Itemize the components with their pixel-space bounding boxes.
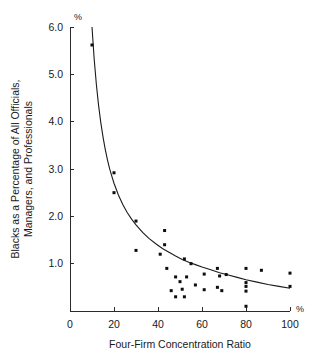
data-point (165, 267, 168, 270)
x-tick-label: 0 (67, 318, 73, 330)
data-point (216, 286, 219, 289)
x-tick-label: 40 (152, 318, 164, 330)
data-point (181, 288, 184, 291)
axes (70, 27, 290, 311)
data-point (260, 269, 263, 272)
data-point (225, 273, 228, 276)
x-axis-unit-label: % (296, 304, 304, 314)
chart-figure: 1.02.03.04.05.06.0020406080100%%Four-Fir… (0, 0, 322, 354)
y-tick-label: 2.0 (48, 210, 63, 222)
data-point (183, 295, 186, 298)
data-point (135, 220, 138, 223)
x-axis-title: Four-Firm Concentration Ratio (109, 338, 251, 350)
scatter-plot: 1.02.03.04.05.06.0020406080100%%Four-Fir… (0, 0, 322, 354)
data-point (220, 289, 223, 292)
data-point (159, 253, 162, 256)
fit-curve (92, 27, 290, 288)
data-point (91, 43, 94, 46)
data-point (245, 305, 248, 308)
regression-curve (92, 27, 290, 288)
axis-labels: 1.02.03.04.05.06.0020406080100%%Four-Fir… (9, 12, 304, 350)
data-point (179, 280, 182, 283)
data-point (245, 267, 248, 270)
data-point (218, 274, 221, 277)
data-point (245, 285, 248, 288)
data-point (183, 257, 186, 260)
y-axis-unit-label: % (74, 12, 82, 22)
data-point (245, 290, 248, 293)
data-point (163, 243, 166, 246)
data-point (245, 281, 248, 284)
x-tick-label: 60 (196, 318, 208, 330)
y-tick-label: 3.0 (48, 163, 63, 175)
data-point (216, 267, 219, 270)
data-point (190, 262, 193, 265)
data-point (170, 289, 173, 292)
data-point (203, 288, 206, 291)
y-axis-title-line-2: Managers, and Professionals (22, 101, 34, 237)
data-point (203, 273, 206, 276)
data-points (91, 43, 292, 307)
data-point (174, 295, 177, 298)
data-point (289, 285, 292, 288)
data-point (113, 171, 116, 174)
data-point (194, 283, 197, 286)
x-tick-label: 100 (281, 318, 299, 330)
y-tick-label: 1.0 (48, 257, 63, 269)
y-axis-title-line-1: Blacks as a Percentage of All Officials, (9, 80, 21, 259)
y-tick-label: 4.0 (48, 115, 63, 127)
y-tick-label: 5.0 (48, 68, 63, 80)
data-point (163, 229, 166, 232)
data-point (289, 272, 292, 275)
x-tick-label: 20 (108, 318, 120, 330)
data-point (174, 275, 177, 278)
data-point (185, 275, 188, 278)
data-point (135, 249, 138, 252)
y-tick-label: 6.0 (48, 21, 63, 33)
data-point (113, 191, 116, 194)
x-tick-label: 80 (240, 318, 252, 330)
